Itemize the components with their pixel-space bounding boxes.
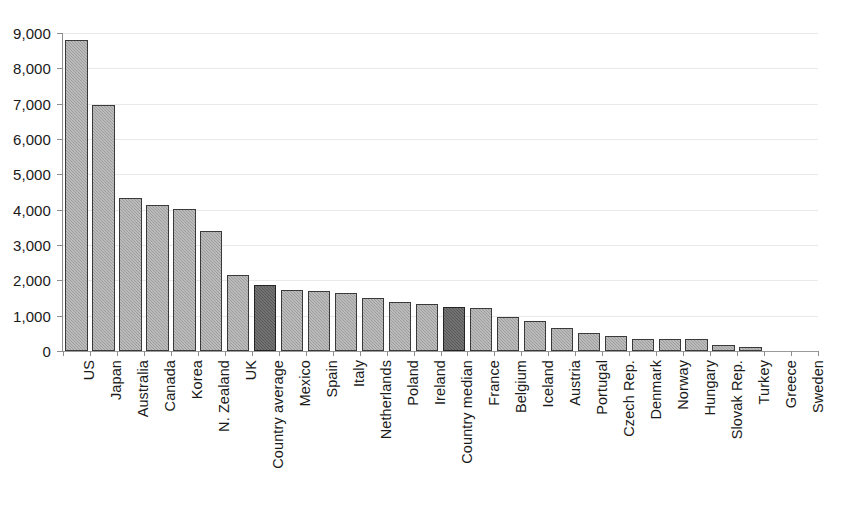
x-axis-tick-mark (791, 351, 792, 356)
x-axis-tick-mark (441, 351, 442, 356)
y-axis-tick-label: 2,000 (13, 272, 51, 289)
bar (146, 205, 168, 351)
x-axis-tick-mark (683, 351, 684, 356)
bar (227, 275, 249, 351)
x-axis-tick-label: Turkey (756, 360, 772, 404)
x-axis-tick-label: Italy (351, 360, 367, 387)
bar (578, 333, 600, 351)
x-axis-tick-mark (602, 351, 603, 356)
x-axis-tick-mark (117, 351, 118, 356)
x-axis-tick-mark (279, 351, 280, 356)
x-axis-tick-label: UK (243, 360, 259, 380)
y-axis-tick-label: 7,000 (13, 95, 51, 112)
bar (551, 328, 573, 351)
x-axis-tick-label: Hungary (702, 360, 718, 416)
y-axis-tick-label: 6,000 (13, 131, 51, 148)
x-axis-tick-mark (333, 351, 334, 356)
chart-title-clipped (0, 0, 843, 7)
x-axis-tick-mark (90, 351, 91, 356)
x-axis-ticks (63, 351, 818, 357)
bar (605, 336, 627, 351)
x-axis-tick-label: Belgium (513, 360, 529, 413)
bar (524, 321, 546, 351)
bar (308, 291, 330, 351)
x-axis-tick-label: Norway (675, 360, 691, 410)
x-axis-tick-mark (63, 351, 64, 356)
x-axis-tick-label: Mexico (297, 360, 313, 407)
x-axis-tick-mark (818, 351, 819, 356)
x-axis-tick-mark (387, 351, 388, 356)
x-axis-tick-label: Netherlands (378, 360, 394, 439)
bar (65, 40, 87, 351)
x-axis-tick-label: Spain (324, 360, 340, 398)
y-axis-tick-label: 8,000 (13, 60, 51, 77)
x-axis-tick-mark (575, 351, 576, 356)
bar (92, 105, 114, 351)
bar (173, 209, 195, 351)
x-axis-tick-mark (710, 351, 711, 356)
y-axis-tick-label: 3,000 (13, 237, 51, 254)
x-axis-tick-mark (629, 351, 630, 356)
x-axis-tick-mark (252, 351, 253, 356)
x-axis-tick-label: Ireland (432, 360, 448, 405)
bar (254, 285, 276, 351)
x-axis-tick-mark (737, 351, 738, 356)
bar (119, 198, 141, 351)
x-axis-tick-label: Australia (135, 360, 151, 417)
gridline (63, 68, 818, 69)
x-axis-tick-mark (521, 351, 522, 356)
bar (443, 307, 465, 351)
x-axis-tick-label: US (81, 360, 97, 380)
bar (362, 298, 384, 351)
bar (389, 302, 411, 351)
x-axis-tick-label: Korea (189, 360, 205, 399)
y-axis-tick-label: 1,000 (13, 307, 51, 324)
x-axis-tick-label: N. Zealand (216, 360, 232, 432)
chart-screenshot: 01,0002,0003,0004,0005,0006,0007,0008,00… (0, 0, 843, 511)
x-axis-tick-mark (467, 351, 468, 356)
bar (685, 339, 707, 351)
x-axis: USJapanAustraliaCanadaKoreaN. ZealandUKC… (63, 360, 818, 510)
gridline (63, 33, 818, 34)
gridline (63, 139, 818, 140)
x-axis-tick-mark (144, 351, 145, 356)
bar (659, 339, 681, 351)
y-axis-tick-label: 9,000 (13, 25, 51, 42)
x-axis-tick-label: Slovak Rep. (729, 360, 745, 439)
y-axis: 01,0002,0003,0004,0005,0006,0007,0008,00… (0, 0, 63, 511)
x-axis-tick-label: Country median (459, 360, 475, 464)
bar (470, 308, 492, 351)
gridline (63, 174, 818, 175)
x-axis-tick-mark (306, 351, 307, 356)
y-axis-tick-label: 0 (43, 343, 51, 360)
x-axis-tick-mark (656, 351, 657, 356)
y-axis-tick-label: 4,000 (13, 201, 51, 218)
x-axis-tick-label: Austria (567, 360, 583, 406)
x-axis-tick-mark (171, 351, 172, 356)
gridline (63, 104, 818, 105)
bar (335, 293, 357, 351)
x-axis-tick-label: Canada (162, 360, 178, 411)
x-axis-tick-label: Country average (270, 360, 286, 469)
x-axis-tick-mark (764, 351, 765, 356)
x-axis-tick-label: Poland (405, 360, 421, 406)
x-axis-tick-mark (548, 351, 549, 356)
y-axis-tick-label: 5,000 (13, 166, 51, 183)
plot-area (63, 33, 818, 351)
bar (632, 339, 654, 351)
x-axis-tick-label: Denmark (648, 360, 664, 420)
bar (281, 290, 303, 351)
x-axis-tick-mark (225, 351, 226, 356)
x-axis-tick-label: Czech Rep. (621, 360, 637, 437)
bar (200, 231, 222, 351)
x-axis-tick-label: Portugal (594, 360, 610, 415)
x-axis-tick-mark (494, 351, 495, 356)
x-axis-tick-label: France (486, 360, 502, 406)
x-axis-tick-mark (360, 351, 361, 356)
x-axis-tick-mark (414, 351, 415, 356)
x-axis-tick-label: Japan (108, 360, 124, 400)
x-axis-tick-label: Greece (783, 360, 799, 408)
x-axis-tick-label: Iceland (540, 360, 556, 407)
bar (416, 304, 438, 351)
x-axis-tick-label: Sweden (810, 360, 826, 413)
